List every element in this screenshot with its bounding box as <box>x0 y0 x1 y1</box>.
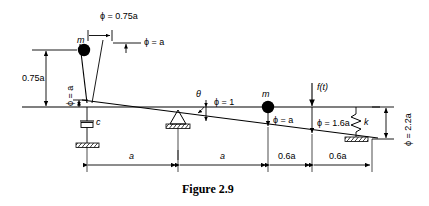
label-mass-left: m <box>77 36 85 45</box>
dimension-phi-left <box>73 100 88 107</box>
dimension-label-2: a <box>220 152 225 161</box>
label-phi-mass-right: ϕ = a <box>273 116 293 125</box>
label-phi-spring-vertical: ϕ = 2.2a <box>404 113 413 146</box>
label-damper: c <box>96 118 101 127</box>
dimension-phi-spring <box>372 107 394 139</box>
label-phi-top: ϕ = 0.75a <box>100 12 138 21</box>
mass-left <box>78 44 90 56</box>
label-force: f(t) <box>317 83 328 92</box>
angle-theta <box>198 107 204 113</box>
label-phi-force: ϕ = 1.6a <box>317 119 350 128</box>
dimension-label-3: 0.6a <box>278 152 296 161</box>
label-theta: θ <box>196 90 201 99</box>
dimension-label-1: a <box>129 152 134 161</box>
label-phi-mast-tip: ϕ = a <box>144 38 164 47</box>
dimension-phi-top <box>88 30 112 41</box>
mass-right <box>262 101 274 113</box>
figure-canvas: ϕ = 0.75a ϕ = a 0.75a ϕ = a c θ ϕ = 1 m … <box>0 0 429 206</box>
label-phi-left-vertical: ϕ = a <box>66 86 75 106</box>
damper-element <box>76 107 99 148</box>
label-mass-right: m <box>262 90 270 99</box>
figure-caption: Figure 2.9 <box>182 182 234 197</box>
dimension-label-4: 0.6a <box>329 152 347 161</box>
label-phi-pivot: ϕ = 1 <box>214 98 234 107</box>
dimension-phi-mast-tip <box>113 43 141 53</box>
label-dim-0-75a: 0.75a <box>22 74 45 83</box>
label-spring: k <box>364 118 369 127</box>
